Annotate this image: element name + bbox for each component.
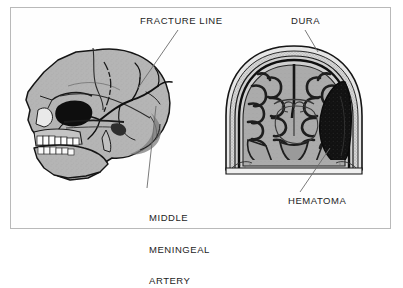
label-hematoma: HEMATOMA [288,196,346,207]
nasal-aperture [36,108,53,127]
caption-fragment [14,239,389,247]
label-dura: DURA [291,16,320,27]
label-fracture-line: FRACTURE LINE [140,16,223,27]
coronal-section-illustration [226,46,362,174]
label-artery-line-1: MIDDLE [149,213,210,224]
label-artery-line-3: ARTERY [149,276,210,287]
section-base [226,168,362,174]
